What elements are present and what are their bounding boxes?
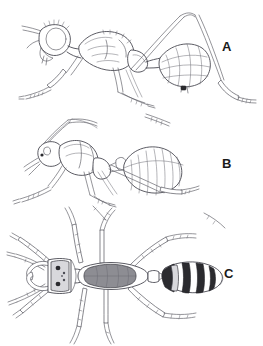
- panel-label-c: C: [224, 267, 234, 280]
- panel-label-a: A: [222, 40, 232, 53]
- panel-label-b: B: [222, 157, 232, 170]
- figure-a-lateral-wasp: [0, 0, 263, 110]
- panel-c: C: [0, 205, 263, 346]
- panel-a: A: [0, 0, 263, 110]
- illustration-plate: A: [0, 0, 263, 346]
- panel-b: B: [0, 110, 263, 210]
